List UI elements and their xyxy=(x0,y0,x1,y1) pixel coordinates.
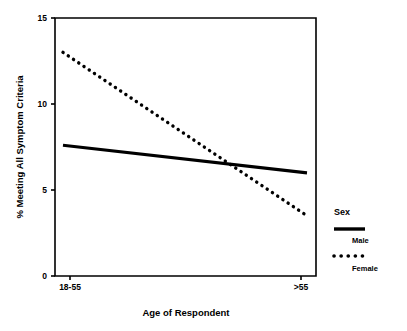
y-axis-title: % Meeting All Symptom Criteria xyxy=(14,75,25,219)
legend: Sex Male Female xyxy=(334,207,378,273)
series-female xyxy=(63,52,307,215)
x-tick-label-left: 18-55 xyxy=(59,282,81,292)
series-male-line xyxy=(63,145,307,173)
x-tick-label-right: >55 xyxy=(294,282,309,292)
legend-title: Sex xyxy=(334,207,350,217)
legend-label-female: Female xyxy=(352,264,378,273)
y-tick-label-10: 10 xyxy=(38,99,48,109)
plot-border xyxy=(55,18,316,276)
chart-figure: 15 10 5 0 18-55 >55 Age of Respondent % … xyxy=(0,0,407,331)
plot-frame xyxy=(55,18,316,276)
y-tick-label-5: 5 xyxy=(42,185,47,195)
y-tick-label-0: 0 xyxy=(42,271,47,281)
y-tick-label-15: 15 xyxy=(38,13,48,23)
x-axis-title: Age of Respondent xyxy=(142,307,230,318)
legend-label-male: Male xyxy=(352,236,369,245)
series-male xyxy=(63,145,307,173)
chart-canvas: 15 10 5 0 18-55 >55 Age of Respondent % … xyxy=(0,0,407,331)
series-female-line xyxy=(63,52,307,215)
